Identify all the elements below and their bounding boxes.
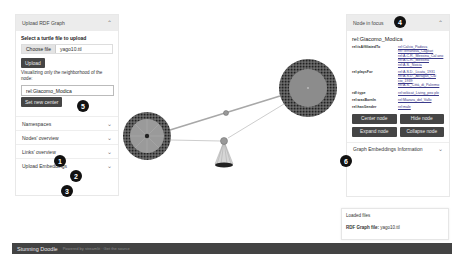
graph-node-focus[interactable] <box>279 59 337 117</box>
property-row: rel:isAffiliatedTo rel:Calcio_Padova rel… <box>352 45 444 67</box>
annotation-badge-2: 2 <box>70 170 82 182</box>
graph-node-left[interactable] <box>123 112 171 160</box>
property-value-link[interactable]: rel:male <box>398 105 444 109</box>
accordion-links-overview[interactable]: Links' overview ⌄ <box>16 144 118 158</box>
node-actions: Center node Hide node Expand node Collap… <box>347 114 449 137</box>
footer-subtitle[interactable]: Powered by streamlit · Get the source <box>63 246 130 251</box>
chevron-down-icon: ⌄ <box>107 149 112 155</box>
annotation-badge-5: 5 <box>77 100 89 112</box>
leaf-node-fan[interactable] <box>215 141 233 168</box>
property-key: rel:isAffiliatedTo <box>352 45 398 67</box>
chevron-down-icon: ⌄ <box>107 121 112 127</box>
annotation-badge-4: 4 <box>394 16 406 28</box>
upload-rdf-header[interactable]: Upload RDF Graph ⌃ <box>16 15 118 31</box>
loaded-files-card: Loaded files RDF Graph file: yago10.ttl <box>341 208 449 240</box>
accordion-label: Namespaces <box>22 121 51 127</box>
left-sidebar: Upload RDF Graph ⌃ Select a turtle file … <box>15 14 119 196</box>
center-node-button[interactable]: Center node <box>352 114 397 124</box>
rdf-graph-file-row: RDF Graph file: yago10.ttl <box>346 225 444 230</box>
property-value-link[interactable]: rel:Mazara_del_Vallo <box>398 98 444 102</box>
expand-node-button[interactable]: Expand node <box>352 127 397 137</box>
chevron-down-icon: ⌄ <box>107 163 112 169</box>
footer-bar: Stunning Doodle Powered by streamlit · G… <box>12 243 452 254</box>
node-in-focus-title: Node in focus <box>353 20 384 26</box>
graph-node-edge-midpoint[interactable] <box>224 111 229 116</box>
accordion-label: Links' overview <box>22 149 56 155</box>
accordion-label: Graph Embeddings Information <box>353 146 422 152</box>
chevron-down-icon: ⌄ <box>438 146 443 152</box>
annotation-badge-6: 6 <box>340 155 352 167</box>
chevron-up-icon[interactable]: ⌃ <box>107 20 112 26</box>
property-row: rel:playsFor rel:A.S.D._Licata_1931 rel:… <box>352 70 444 88</box>
accordion-label: Nodes' overview <box>22 135 59 141</box>
property-key: rel:wasBornIn <box>352 98 398 102</box>
node-properties-table: rel:isAffiliatedTo rel:Calcio_Padova rel… <box>347 45 449 110</box>
file-uploader[interactable]: Choose file yago10.ttl <box>21 44 113 54</box>
rdf-graph-file-label: RDF Graph file: <box>346 225 379 230</box>
upload-button[interactable]: Upload <box>21 58 45 68</box>
property-value-link[interactable]: rel:A.S.D._Akragas_Cal cio_1939 <box>398 74 444 83</box>
choose-file-button[interactable]: Choose file <box>22 45 56 53</box>
property-row: rel:hasGender rel:male <box>352 105 444 109</box>
property-value-link[interactable]: rel:A.S._Città_di_Palermo <box>398 83 444 87</box>
annotation-badge-3: 3 <box>61 185 73 197</box>
collapse-node-button[interactable]: Collapse node <box>400 127 445 137</box>
property-key: rel:hasGender <box>352 105 398 109</box>
app-title: Stunning Doodle <box>17 246 58 252</box>
chevron-down-icon: ⌄ <box>107 135 112 141</box>
property-key: rel:playsFor <box>352 70 398 88</box>
accordion-upload-embeddings[interactable]: Upload Embeddings ⌄ <box>16 158 118 172</box>
selected-file-name: yago10.ttl <box>56 46 82 52</box>
graph-edge <box>170 140 221 141</box>
center-node-input[interactable]: rel:Giacomo_Modica <box>21 85 114 96</box>
graph-node-small[interactable] <box>221 138 228 145</box>
select-file-label: Select a turtle file to upload <box>21 35 113 41</box>
property-value-link[interactable]: rel:A.S._Noicia <box>398 63 444 67</box>
focused-node-name: rel:Giacomo_Modica <box>347 31 449 45</box>
property-value-link[interactable]: rel:wikicat_Living_peo ple <box>398 91 444 95</box>
accordion-namespaces[interactable]: Namespaces ⌄ <box>16 116 118 130</box>
neighborhood-hint: Visualizing only the neighborhood of the… <box>21 70 113 82</box>
annotation-badge-1: 1 <box>54 155 66 167</box>
accordion-nodes-overview[interactable]: Nodes' overview ⌄ <box>16 130 118 144</box>
property-key: rdf:type <box>352 91 398 95</box>
upload-rdf-title: Upload RDF Graph <box>22 20 65 26</box>
property-row: rel:wasBornIn rel:Mazara_del_Vallo <box>352 98 444 102</box>
rdf-graph-file-value: yago10.ttl <box>380 225 400 230</box>
loaded-files-title: Loaded files <box>346 213 444 218</box>
accordion-graph-embeddings[interactable]: Graph Embeddings Information ⌄ <box>347 142 449 155</box>
property-row: rdf:type rel:wikicat_Living_peo ple <box>352 91 444 95</box>
set-new-center-button[interactable]: Set new center <box>21 97 62 107</box>
chevron-up-icon[interactable]: ⌃ <box>438 20 443 26</box>
hide-node-button[interactable]: Hide node <box>400 114 445 124</box>
node-in-focus-panel: Node in focus ⌃ rel:Giacomo_Modica rel:i… <box>346 14 450 197</box>
